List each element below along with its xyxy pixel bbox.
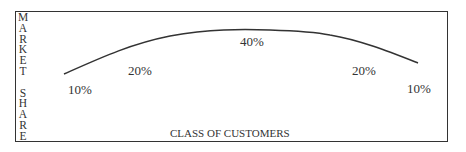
value-label-class-4: 20% bbox=[352, 64, 376, 77]
value-label-class-1: 10% bbox=[68, 83, 92, 96]
value-label-class-3: 40% bbox=[240, 35, 264, 48]
value-label-class-5: 10% bbox=[407, 82, 431, 95]
x-axis-label: CLASS OF CUSTOMERS bbox=[170, 127, 290, 139]
value-label-class-2: 20% bbox=[128, 64, 152, 77]
